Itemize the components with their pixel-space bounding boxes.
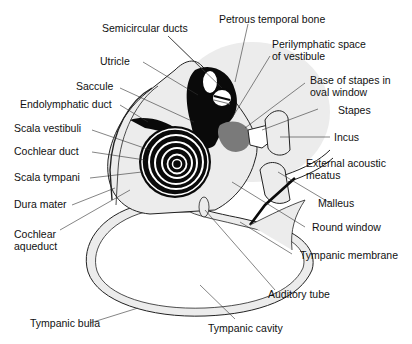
ear-anatomy-diagram: Semicircular ducts Petrous temporal bone…	[0, 0, 412, 344]
label-malleus: Malleus	[318, 197, 354, 209]
label-incus: Incus	[334, 131, 359, 143]
label-stapes: Stapes	[338, 104, 371, 116]
label-external-acoustic-line1: External acoustic	[306, 157, 386, 169]
label-external-acoustic-line2: meatus	[306, 169, 340, 181]
label-cochlear-aqueduct-line2: aqueduct	[14, 240, 57, 252]
label-dura-mater: Dura mater	[14, 198, 67, 210]
label-base-of-stapes-line1: Base of stapes in	[310, 74, 391, 86]
label-auditory-tube: Auditory tube	[268, 288, 330, 300]
label-round-window: Round window	[312, 221, 381, 233]
label-scala-vestibuli: Scala vestibuli	[14, 122, 81, 134]
label-cochlear-aqueduct-line1: Cochlear	[14, 228, 56, 240]
label-tympanic-bulla: Tympanic bulla	[30, 317, 100, 329]
label-endolymphatic-duct: Endolymphatic duct	[20, 98, 112, 110]
label-scala-tympani: Scala tympani	[14, 171, 80, 183]
label-tympanic-cavity: Tympanic cavity	[208, 322, 283, 334]
auditory-tube-opening	[199, 197, 209, 217]
label-semicircular-ducts: Semicircular ducts	[102, 22, 188, 34]
label-perilymphatic-space-line1: Perilymphatic space	[272, 38, 366, 50]
label-perilymphatic-space-line2: of vestibule	[272, 50, 325, 62]
label-cochlear-duct: Cochlear duct	[14, 145, 79, 157]
label-tympanic-membrane: Tympanic membrane	[300, 249, 398, 261]
label-base-of-stapes-line2: oval window	[310, 86, 367, 98]
label-saccule: Saccule	[76, 80, 113, 92]
label-petrous-temporal-bone: Petrous temporal bone	[219, 13, 325, 25]
label-utricle: Utricle	[100, 55, 130, 67]
incus-shape	[265, 111, 290, 155]
